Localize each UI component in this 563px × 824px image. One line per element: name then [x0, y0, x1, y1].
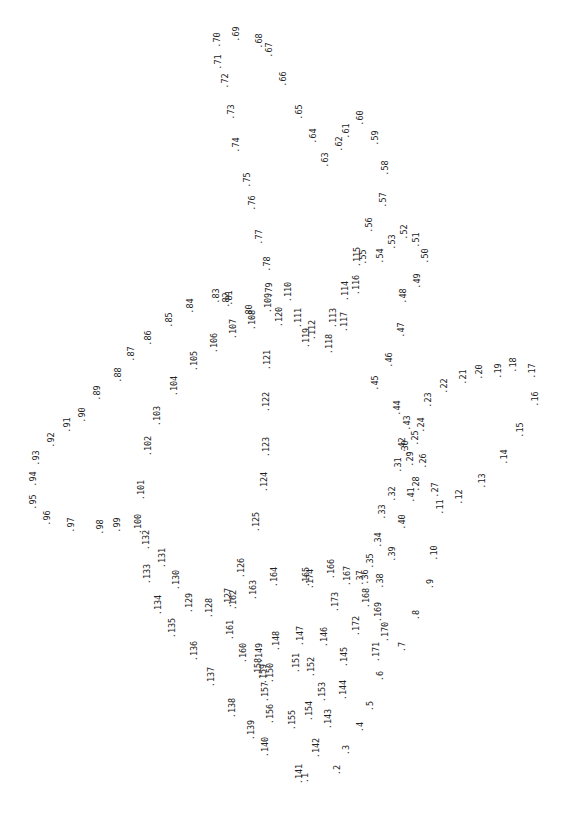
- dot-label: .92: [47, 432, 56, 447]
- dot-label: .56: [365, 217, 374, 232]
- dot-label: .116: [352, 275, 361, 295]
- dot-label: .148: [272, 631, 281, 651]
- dot-label: .50: [421, 248, 430, 263]
- dot-label: .141: [295, 764, 304, 784]
- dot-label: .21: [459, 369, 468, 384]
- dot-label: .172: [352, 616, 361, 636]
- dot-label: .147: [296, 626, 305, 646]
- dot-label: .171: [372, 642, 381, 662]
- dot-label: .105: [190, 351, 199, 371]
- dot-label: .72: [221, 73, 230, 88]
- dot-label: .128: [205, 598, 214, 618]
- dot-label: .134: [154, 595, 163, 615]
- dot-label: .57: [379, 192, 388, 207]
- dot-label: .125: [252, 512, 261, 532]
- dot-label: .19: [494, 363, 503, 378]
- dot-label: .3: [342, 745, 351, 755]
- dot-label: .73: [227, 104, 236, 119]
- dot-label: .52: [400, 224, 409, 239]
- dot-label: .120: [275, 307, 284, 327]
- dot-label: .48: [399, 288, 408, 303]
- dot-label: .124: [260, 472, 269, 492]
- dot-label: .40: [398, 514, 407, 529]
- dot-label: .161: [226, 620, 235, 640]
- dot-label: .153: [318, 682, 327, 702]
- dot-label: .108: [248, 310, 257, 330]
- dot-label: .67: [265, 42, 274, 57]
- dot-label: .137: [207, 667, 216, 687]
- dot-label: .59: [371, 130, 380, 145]
- dot-label: .65: [295, 104, 304, 119]
- dot-label: .26: [419, 453, 428, 468]
- dot-label: .22: [440, 378, 449, 393]
- dot-label: .133: [143, 564, 152, 584]
- dot-label: .129: [185, 593, 194, 613]
- dot-label: .77: [255, 229, 264, 244]
- dot-label: .31: [394, 457, 403, 472]
- dot-label: .132: [142, 530, 151, 550]
- dot-label: .82: [222, 292, 231, 307]
- dot-label: .23: [424, 392, 433, 407]
- dot-label: .43: [403, 415, 412, 430]
- dot-label: .164: [270, 567, 279, 587]
- dot-label: .37: [356, 570, 365, 585]
- dot-label: .75: [243, 172, 252, 187]
- dot-label: .60: [356, 110, 365, 125]
- dot-label: .102: [144, 436, 153, 456]
- dot-label: .70: [213, 32, 222, 47]
- dot-label: .38: [376, 573, 385, 588]
- dot-label: .174: [306, 569, 315, 589]
- dot-label: .160: [239, 643, 248, 663]
- dot-label: .84: [186, 298, 195, 313]
- dot-label: .123: [262, 437, 271, 457]
- dot-label: .157: [261, 682, 270, 702]
- dot-label: .46: [385, 352, 394, 367]
- dot-label: .168: [362, 588, 371, 608]
- dot-label: .14: [500, 449, 509, 464]
- dot-label: .12: [455, 489, 464, 504]
- dot-label: .106: [210, 333, 219, 353]
- dot-label: .35: [366, 553, 375, 568]
- dot-label: .111: [294, 308, 303, 328]
- dot-label: .135: [168, 618, 177, 638]
- dot-label: .20: [475, 364, 484, 379]
- dot-label: .142: [312, 738, 321, 758]
- dot-label: .107: [229, 319, 238, 339]
- dot-label: .166: [327, 559, 336, 579]
- dot-label: .159: [259, 664, 268, 684]
- dot-label: .138: [228, 698, 237, 718]
- dot-label: .118: [325, 334, 334, 354]
- dot-label: .94: [29, 471, 38, 486]
- dot-label: .155: [288, 710, 297, 730]
- dot-label: .97: [67, 517, 76, 532]
- dot-label: .163: [249, 580, 258, 600]
- dot-label: .62: [335, 136, 344, 151]
- dot-label: .162: [229, 590, 238, 610]
- dot-label: .83: [212, 288, 221, 303]
- dot-label: .53: [388, 234, 397, 249]
- dot-label: .91: [63, 417, 72, 432]
- dot-label: .5: [366, 701, 375, 711]
- dot-label: .86: [144, 330, 153, 345]
- dot-label: .96: [43, 510, 52, 525]
- dot-label: .69: [232, 26, 241, 41]
- dot-label: .169: [374, 602, 383, 622]
- dot-label: .151: [292, 653, 301, 673]
- dot-label: .78: [263, 256, 272, 271]
- dot-label: .74: [232, 137, 241, 152]
- dot-label: .6: [376, 671, 385, 681]
- dot-label: .51: [412, 232, 421, 247]
- dot-label: .27: [431, 482, 440, 497]
- dot-label: .44: [393, 400, 402, 415]
- dot-label: .49: [413, 273, 422, 288]
- dot-label: .110: [284, 282, 293, 302]
- dot-label: .99: [113, 517, 122, 532]
- dot-label: .114: [341, 281, 350, 301]
- dot-label: .121: [263, 350, 272, 370]
- dot-label: .2: [333, 765, 342, 775]
- dot-label: .126: [237, 558, 246, 578]
- dot-label: .152: [307, 657, 316, 677]
- dot-label: .88: [114, 367, 123, 382]
- dot-label: .154: [305, 701, 314, 721]
- dot-label: .41: [407, 487, 416, 502]
